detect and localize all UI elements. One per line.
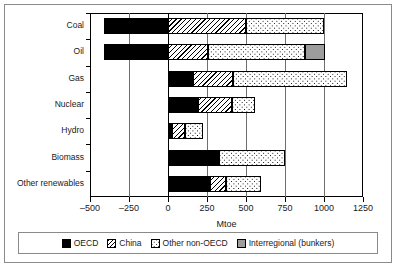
x-tick-label: 250 [199, 204, 214, 213]
bar-segment-oecd [168, 176, 210, 192]
x-tick [324, 197, 325, 202]
bar-segment-china [198, 97, 232, 113]
x-tick-label: 1250 [353, 204, 373, 213]
bar-segment-china [168, 44, 208, 60]
legend-swatch-bunker-icon [237, 239, 246, 248]
x-tick [90, 197, 91, 202]
x-tick [246, 197, 247, 202]
y-axis-label-coal: Coal [67, 21, 84, 30]
y-tick [86, 13, 90, 14]
bar-segment-china [172, 123, 185, 139]
bar-group [90, 144, 363, 170]
bar-segment-china [193, 71, 233, 87]
x-tick [363, 197, 364, 202]
stacked-bar [90, 176, 363, 192]
x-axis-title: Mtoe [90, 219, 363, 229]
y-tick [86, 118, 90, 119]
legend-item: OECD [62, 238, 99, 248]
bar-segment-oecd [168, 97, 198, 113]
x-tick-label: 750 [277, 204, 292, 213]
legend-label: OECD [74, 238, 99, 248]
y-axis-label-oil: Oil [74, 47, 84, 56]
bar-group [90, 118, 363, 144]
legend-swatch-oecd-icon [62, 239, 71, 248]
bar-segment-other [246, 18, 324, 34]
x-tick-label: 0 [165, 204, 170, 213]
legend-item: Interregional (bunkers) [237, 238, 335, 248]
y-axis-label-nuclear: Nuclear [55, 100, 84, 109]
y-tick [86, 92, 90, 93]
legend-item: China [107, 238, 141, 248]
y-tick [86, 144, 90, 145]
x-tick [285, 197, 286, 202]
x-tick [207, 197, 208, 202]
bar-segment-oecd [104, 18, 168, 34]
x-tick-label: –500 [80, 204, 100, 213]
stacked-bar [90, 123, 363, 139]
stacked-bar [90, 150, 363, 166]
bar-group [90, 92, 363, 118]
bar-segment-bunker [305, 44, 325, 60]
bar-group [90, 39, 363, 65]
y-axis-label-gas: Gas [68, 74, 84, 83]
legend-label: Interregional (bunkers) [249, 238, 335, 248]
legend-item: Other non-OECD [151, 238, 228, 248]
stacked-bar [90, 18, 363, 34]
bar-segment-oecd [104, 44, 168, 60]
legend-swatch-china-icon [107, 239, 116, 248]
x-tick [168, 197, 169, 202]
x-tick-label: 500 [238, 204, 253, 213]
plot-area: –500–250025050075010001250 Mtoe [90, 13, 363, 197]
legend-label: China [119, 238, 141, 248]
bar-group [90, 66, 363, 92]
bar-segment-other [232, 97, 255, 113]
x-tick [129, 197, 130, 202]
y-axis-label-other-renewables: Other renewables [17, 179, 84, 188]
bar-segment-oecd [168, 150, 219, 166]
y-tick [86, 66, 90, 67]
stacked-bar [90, 71, 363, 87]
bar-segment-other [208, 44, 306, 60]
y-axis-label-biomass: Biomass [51, 153, 84, 162]
bar-segment-china [168, 18, 246, 34]
bar-segment-other [226, 176, 261, 192]
bar-segment-other [233, 71, 348, 87]
y-tick [86, 39, 90, 40]
legend-swatch-other-icon [151, 239, 160, 248]
bar-segment-other [185, 123, 203, 139]
chart-legend: OECDChinaOther non-OECDInterregional (bu… [18, 232, 378, 254]
chart-figure: –500–250025050075010001250 Mtoe CoalOilG… [0, 0, 396, 267]
y-axis-label-hydro: Hydro [61, 126, 84, 135]
bar-segment-china [210, 176, 226, 192]
x-tick-label: –250 [119, 204, 139, 213]
x-tick-label: 1000 [314, 204, 334, 213]
bar-group [90, 13, 363, 39]
bar-segment-other [219, 150, 285, 166]
bar-group [90, 171, 363, 197]
legend-label: Other non-OECD [163, 238, 228, 248]
y-tick [86, 171, 90, 172]
stacked-bar [90, 44, 363, 60]
stacked-bar [90, 97, 363, 113]
bar-segment-oecd [168, 71, 193, 87]
